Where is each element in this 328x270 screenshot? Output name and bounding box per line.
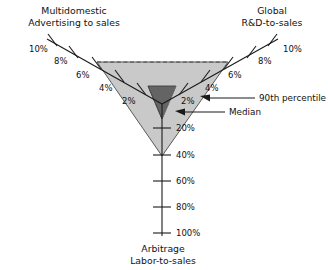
ticklabel-labor-20: 20% <box>176 123 195 133</box>
corner-label-rnd-line1: Global <box>257 5 287 16</box>
ticklabel-advertising-6: 6% <box>76 70 90 80</box>
ticklabel-rnd-8: 8% <box>258 56 272 66</box>
annotation-p90-label: 90th percentile <box>259 93 326 103</box>
ticklabel-labor-40: 40% <box>176 150 195 160</box>
corner-label-rnd-line2: R&D-to-sales <box>242 17 303 28</box>
corner-label-labor-line2: Labor-to-sales <box>130 255 196 266</box>
ticklabel-advertising-2: 2% <box>122 96 136 106</box>
chart-svg: 10% 8% 6% 4% 2% 10% 8% 6% 4% 2% 20% 40% … <box>0 0 328 270</box>
ticklabel-advertising-8: 8% <box>54 56 68 66</box>
ticklabel-labor-100: 100% <box>176 228 200 238</box>
ticklabel-advertising-10: 10% <box>29 44 48 54</box>
ticklabel-advertising-4: 4% <box>99 83 113 93</box>
corner-label-labor-line1: Arbitrage <box>141 243 185 254</box>
ticklabel-rnd-4: 4% <box>205 83 219 93</box>
corner-label-advertising-line2: Advertising to sales <box>28 17 120 28</box>
corner-label-advertising-line1: Multidomestic <box>41 5 106 16</box>
ticklabel-rnd-10: 10% <box>283 44 302 54</box>
annotation-median-label: Median <box>229 107 261 117</box>
ticklabel-labor-80: 80% <box>176 202 195 212</box>
ticklabel-rnd-6: 6% <box>228 70 242 80</box>
ticklabel-labor-60: 60% <box>176 176 195 186</box>
ticklabel-rnd-2: 2% <box>181 96 195 106</box>
ternary-chart: 10% 8% 6% 4% 2% 10% 8% 6% 4% 2% 20% 40% … <box>0 0 328 270</box>
